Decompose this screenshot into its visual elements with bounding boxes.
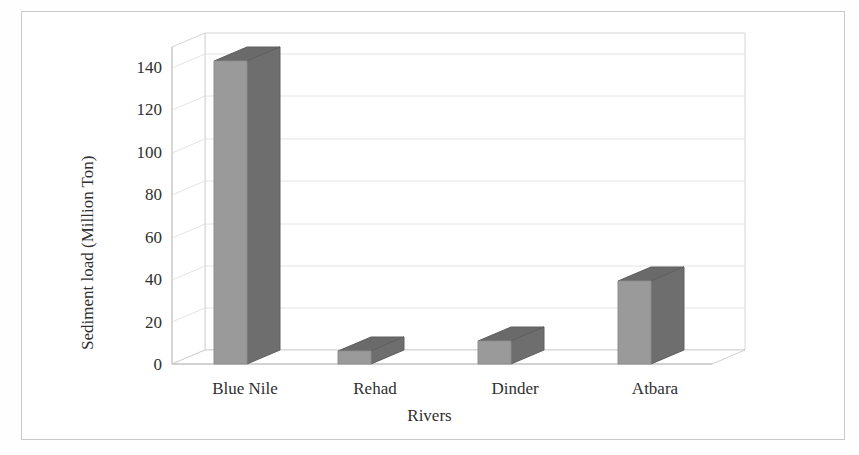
bar-front-face [214, 61, 247, 364]
x-axis-title: Rivers [0, 406, 859, 426]
left-side-wall [172, 33, 205, 364]
x-tick-rehad: Rehad [310, 380, 440, 398]
x-tick-blue-nile: Blue Nile [180, 380, 310, 398]
bar-front-face [338, 351, 371, 364]
bar-side-face [651, 267, 684, 364]
x-tick-atbara: Atbara [590, 380, 720, 398]
bar-front-face [478, 341, 511, 364]
figure-canvas: 140 120 100 80 60 40 20 0 [0, 0, 859, 455]
bar-blue-nile[interactable] [214, 47, 280, 364]
x-tick-dinder: Dinder [450, 380, 580, 398]
bar-side-face [247, 47, 280, 364]
bar-front-face [618, 281, 651, 364]
y-axis-title: Sediment load (Million Ton) [78, 156, 98, 350]
plot-area: 140 120 100 80 60 40 20 0 [0, 0, 859, 455]
bar-atbara[interactable] [618, 267, 684, 364]
